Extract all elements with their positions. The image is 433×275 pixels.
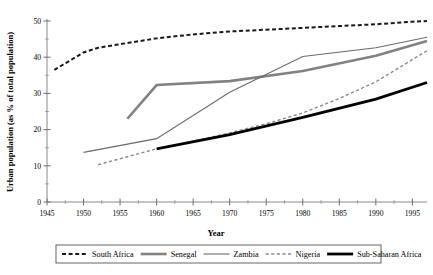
x-tick-label: 1965: [186, 209, 201, 218]
legend-label-2: Zambia: [234, 250, 259, 259]
x-tick-label: 1975: [259, 209, 274, 218]
x-tick-label: 1955: [112, 209, 127, 218]
y-tick-labels: 01020304050: [33, 17, 41, 207]
y-tick-label: 0: [37, 198, 41, 207]
y-axis-title: Urban population (as % of total populati…: [5, 32, 15, 192]
y-tick-label: 10: [33, 162, 41, 171]
y-tick-label: 50: [33, 17, 41, 26]
legend-label-3: Nigeria: [296, 250, 321, 259]
x-tick-label: 1950: [76, 209, 91, 218]
x-tick-labels: 1945195019551960196519701975198019851990…: [39, 209, 420, 218]
data-series: [54, 21, 427, 165]
chart-legend: South AfricaSenegalZambiaNigeriaSub-Saha…: [56, 245, 422, 263]
x-tick-label: 1960: [149, 209, 164, 218]
series-line-senegal: [127, 41, 427, 119]
y-tick-label: 20: [33, 125, 41, 134]
x-tick-label: 1995: [405, 209, 420, 218]
y-axis-title-label: Urban population (as % of total populati…: [5, 32, 15, 192]
chart-figure: Urban population (as % of total populati…: [0, 0, 433, 275]
series-line-south-africa: [54, 21, 427, 70]
urban-population-line-chart: Urban population (as % of total populati…: [0, 0, 433, 275]
legend-label-0: South Africa: [92, 250, 134, 259]
legend-label-1: Senegal: [171, 250, 198, 259]
y-tick-label: 40: [33, 53, 41, 62]
x-tick-label: 1990: [368, 209, 383, 218]
x-tick-label: 1980: [295, 209, 310, 218]
x-axis-title: Year: [208, 228, 225, 238]
series-line-sub-saharan-africa: [157, 83, 427, 149]
x-tick-label: 1970: [222, 209, 237, 218]
legend-label-4: Sub-Saharan Africa: [357, 250, 422, 259]
y-tick-label: 30: [33, 89, 41, 98]
x-tick-label: 1945: [39, 209, 54, 218]
x-axis-title-label: Year: [208, 228, 225, 238]
series-line-nigeria: [98, 51, 427, 165]
x-tick-label: 1985: [332, 209, 347, 218]
